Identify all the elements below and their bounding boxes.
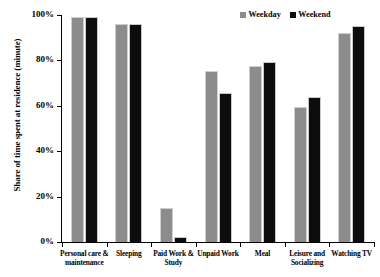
bar-weekday	[249, 66, 262, 242]
y-axis-tick-label: 80%	[10, 55, 54, 64]
bar-weekend	[129, 24, 142, 242]
bar-weekend	[263, 62, 276, 242]
x-axis-tick-mark	[62, 243, 63, 247]
bar-weekend	[308, 97, 321, 242]
bar-weekend	[85, 17, 98, 242]
y-axis-tick-label: 20%	[10, 192, 54, 201]
bar-weekday	[205, 71, 218, 242]
weekday-swatch	[240, 12, 246, 18]
plot-area	[62, 15, 374, 242]
bar-weekday	[71, 17, 84, 242]
x-axis-tick-mark	[196, 243, 197, 247]
legend-item-label: Weekend	[298, 10, 330, 19]
weekend-swatch	[290, 12, 296, 18]
x-axis-tick-mark	[374, 243, 375, 247]
x-axis-line	[61, 242, 375, 243]
chart-legend: WeekdayWeekend	[240, 10, 331, 19]
bar-weekday	[115, 24, 128, 242]
bar-weekday	[338, 33, 351, 242]
bar-weekend	[219, 93, 232, 242]
y-axis-tick-label: 100%	[10, 10, 54, 19]
x-axis-tick-mark	[107, 243, 108, 247]
legend-item: Weekday	[240, 10, 281, 19]
x-axis-tick-mark	[285, 243, 286, 247]
bar-weekday	[160, 208, 173, 242]
x-axis-category-label: Watching TV	[323, 249, 380, 258]
bar-chart: Share of time spent at residence (minute…	[0, 0, 380, 277]
x-axis-tick-mark	[240, 243, 241, 247]
y-axis-tick-label: 0%	[10, 237, 54, 246]
bar-weekend	[174, 237, 187, 242]
y-axis-tick-label: 60%	[10, 101, 54, 110]
legend-item-label: Weekday	[249, 10, 281, 19]
y-axis-title: Share of time spent at residence (minute…	[12, 10, 22, 220]
y-axis-tick-label: 40%	[10, 146, 54, 155]
x-axis-tick-mark	[329, 243, 330, 247]
x-axis-tick-mark	[151, 243, 152, 247]
legend-item: Weekend	[290, 10, 331, 19]
bar-weekday	[294, 107, 307, 242]
bar-weekend	[352, 26, 365, 242]
